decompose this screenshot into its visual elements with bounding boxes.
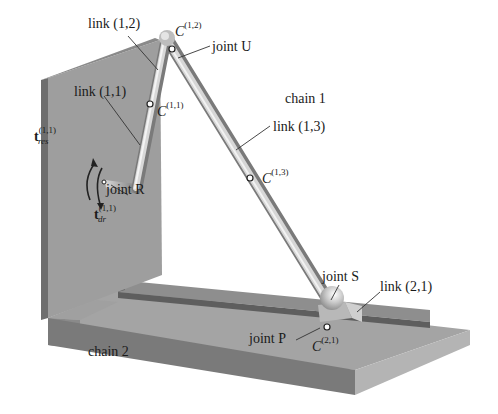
- label-C-1-3: C(1,3): [262, 170, 289, 186]
- label-C-1-2: C(1,2): [175, 23, 202, 39]
- label-chain-1: chain 1: [285, 92, 326, 106]
- label-C-1-2-sup: (1,2): [184, 20, 201, 30]
- label-link-2-1: link (2,1): [380, 280, 432, 294]
- label-C-1-1-base: C: [157, 104, 166, 119]
- label-torque-res-sub: res: [38, 136, 49, 146]
- label-C-1-1-sup: (1,1): [166, 100, 183, 110]
- mechanism-diagram: link (1,2) link (1,1) C(1,2) joint U C(1…: [0, 0, 498, 414]
- label-joint-U: joint U: [212, 40, 251, 54]
- leader-link-1-3: [236, 126, 270, 150]
- label-C-1-1: C(1,1): [157, 103, 184, 119]
- label-C-2-1-base: C: [312, 339, 321, 354]
- label-link-1-3: link (1,3): [273, 120, 325, 134]
- label-torque-res: t(1,1)res: [34, 128, 49, 146]
- com-1-3-marker: [247, 175, 253, 181]
- label-link-1-1: link (1,1): [74, 85, 126, 99]
- label-chain-2: chain 2: [88, 345, 129, 359]
- label-C-2-1-sup: (2,1): [321, 335, 338, 345]
- label-torque-dr-sub: dr: [98, 214, 106, 224]
- label-C-1-3-base: C: [262, 171, 271, 186]
- label-torque-res-sup: (1,1): [39, 125, 56, 135]
- mechanism-drawing: [0, 0, 498, 414]
- com-1-2-marker: [169, 46, 175, 52]
- label-link-1-2: link (1,2): [88, 17, 140, 31]
- label-joint-R: joint R: [106, 183, 145, 197]
- com-1-1-marker: [147, 101, 153, 107]
- label-joint-S: joint S: [322, 270, 359, 284]
- label-torque-dr-sup: (1,1): [99, 203, 116, 213]
- label-C-1-3-sup: (1,3): [271, 167, 288, 177]
- label-torque-dr: t(1,1)dr: [94, 206, 106, 224]
- label-joint-P: joint P: [249, 332, 286, 346]
- label-C-2-1: C(2,1): [312, 338, 339, 354]
- com-2-1-marker: [324, 324, 330, 330]
- leader-joint-U: [178, 46, 210, 58]
- label-C-1-2-base: C: [175, 24, 184, 39]
